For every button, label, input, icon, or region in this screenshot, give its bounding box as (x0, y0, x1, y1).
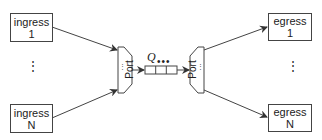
egress-1-label: egress (273, 15, 306, 27)
egress-n-label: egress (273, 106, 306, 118)
ingress-1-node: ingress 1 (10, 13, 53, 42)
ingress-1-index: 1 (28, 28, 34, 40)
left-port-inner-dots: ⋮ (119, 65, 123, 68)
egress-ellipsis: ⋮ (287, 64, 293, 68)
ingress-n-index: N (28, 119, 36, 131)
egress-n-index: N (286, 118, 294, 130)
right-port-label: Port (187, 55, 198, 85)
arrow-port-to-egress1 (204, 27, 267, 50)
ingress-1-label: ingress (14, 16, 49, 28)
diagram-canvas: ingress 1 ⋮ ingress N ⋮ Port Q ••• Port … (0, 0, 322, 140)
arrow-ingress1-to-port (52, 27, 117, 50)
queue-label: Q (147, 50, 156, 65)
left-port-label: Port (124, 55, 135, 85)
arrow-ingressN-to-port (52, 90, 117, 118)
egress-1-node: egress 1 (268, 13, 312, 41)
ingress-n-label: ingress (14, 107, 49, 119)
right-port-inner-dots: ⋮ (197, 65, 201, 68)
ingress-ellipsis: ⋮ (27, 64, 33, 68)
ingress-n-node: ingress N (10, 104, 53, 133)
egress-1-index: 1 (287, 27, 293, 39)
queue-dots: ••• (157, 56, 171, 67)
queue-buffer (145, 66, 177, 74)
arrow-port-to-egressN (204, 90, 267, 117)
egress-n-node: egress N (268, 104, 312, 132)
